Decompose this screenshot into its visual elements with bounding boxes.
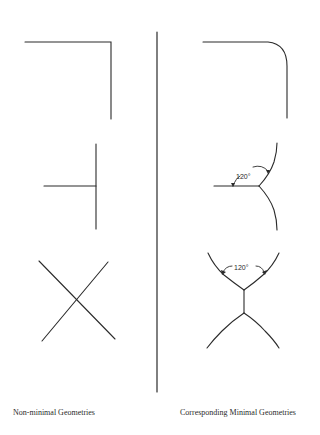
x-crossing-shape [39,261,115,341]
angle-label-y-junction: 120° [236,173,251,180]
right-angle-corner-shape [25,42,111,119]
t-junction-shape [44,144,96,229]
geometry-diagram: 120° 120° [0,0,320,435]
caption-minimal: Corresponding Minimal Geometries [180,408,296,417]
y-junction-shape [214,143,277,230]
caption-non-minimal: Non-minimal Geometries [13,408,95,417]
rounded-corner-shape [203,42,287,118]
angle-label-double-y: 120° [234,264,249,271]
